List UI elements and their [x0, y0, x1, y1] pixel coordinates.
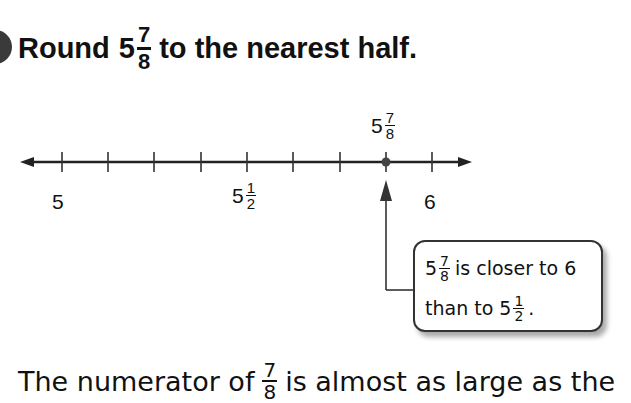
point-marker: [382, 158, 391, 167]
point-label: 5 78: [371, 110, 397, 141]
label-5-half: 5 12: [232, 180, 258, 211]
explanation-text: The numerator of 78 is almost as large a…: [18, 360, 615, 402]
label-5: 5: [52, 190, 64, 214]
left-arrowhead-icon: [20, 157, 34, 167]
right-arrowhead-icon: [458, 157, 472, 167]
label-6: 6: [424, 190, 436, 214]
explanation-callout: 5 78 is closer to 6 than to 5 12 .: [413, 240, 603, 332]
up-arrow-icon: [380, 180, 392, 201]
